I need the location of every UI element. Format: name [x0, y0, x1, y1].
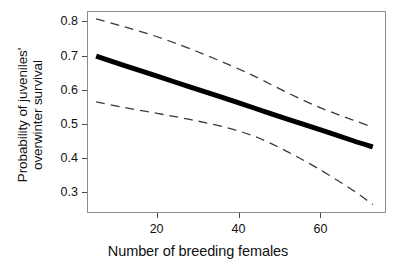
x-axis-title: Number of breeding females — [0, 243, 396, 259]
x-tick-mark — [320, 213, 321, 218]
x-tick-mark — [157, 213, 158, 218]
figure: Probability of juveniles' overwinter sur… — [0, 0, 396, 275]
x-tick-label: 60 — [300, 222, 340, 236]
x-axis-ticks: 204060 — [0, 0, 396, 275]
x-tick-mark — [239, 213, 240, 218]
x-tick-label: 20 — [137, 222, 177, 236]
x-tick-label: 40 — [219, 222, 259, 236]
